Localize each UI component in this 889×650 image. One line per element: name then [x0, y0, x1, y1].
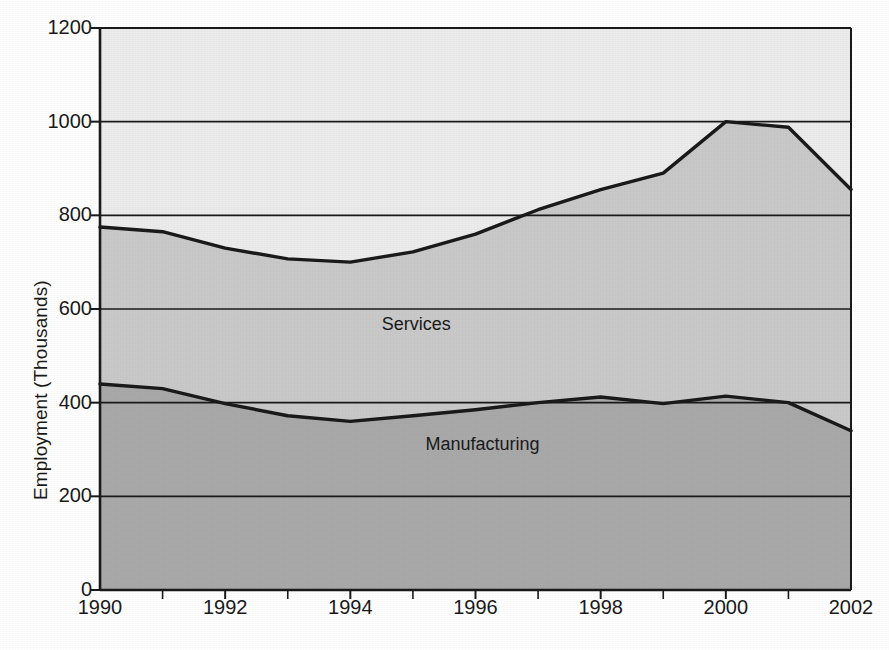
- area-manufacturing: [100, 384, 851, 590]
- series-annotation-services: Services: [382, 314, 451, 335]
- series-annotation-manufacturing: Manufacturing: [425, 434, 539, 455]
- chart-figure: Employment (Thousands) 02004006008001000…: [0, 0, 889, 650]
